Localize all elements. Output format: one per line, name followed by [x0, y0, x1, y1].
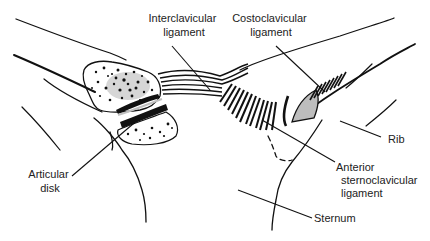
label-costoclavicular-ligament: Costoclavicular ligament — [232, 12, 310, 38]
interclavicular-ligament — [158, 64, 248, 96]
label-anterior-sternoclavicular-ligament: Anterior sternoclavicular ligament — [336, 161, 420, 199]
leader-rib — [340, 121, 381, 137]
sternoclavicular-joint-diagram: Interclavicular ligament Costoclavicular… — [0, 0, 430, 241]
leader-articular-disk — [72, 118, 140, 176]
leader-anterior-sternoclavicular — [262, 120, 335, 162]
anterior-sternoclavicular-ligament — [220, 84, 288, 130]
leader-costoclavicular — [276, 46, 325, 92]
label-rib: Rib — [388, 133, 405, 145]
leader-lines — [72, 46, 381, 218]
label-sternum: Sternum — [314, 212, 356, 224]
marrow-region — [106, 72, 150, 100]
costoclavicular-ligament — [292, 72, 346, 122]
label-interclavicular-ligament: Interclavicular ligament — [149, 12, 220, 38]
leader-sternum — [238, 190, 312, 218]
leader-interclavicular — [172, 46, 210, 90]
label-articular-disk: Articular disk — [28, 168, 71, 194]
